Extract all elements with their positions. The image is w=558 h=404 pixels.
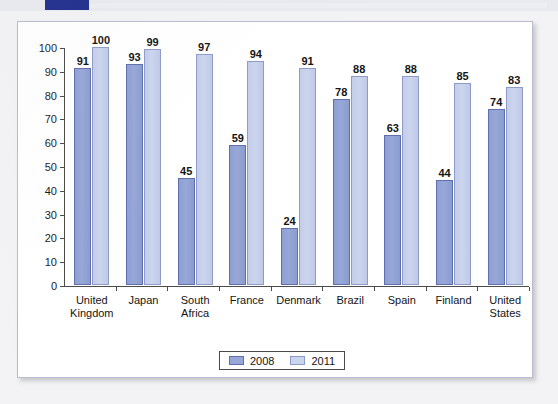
y-axis-tick — [60, 215, 64, 216]
y-axis-tick — [60, 191, 64, 192]
y-axis-tick-label: 40 — [45, 185, 57, 197]
chart-panel: 0102030405060708090100 91100939945975994… — [17, 21, 533, 378]
y-axis-tick-label: 90 — [45, 66, 57, 78]
y-axis-line — [64, 48, 65, 287]
bar-value-label: 44 — [438, 167, 450, 179]
y-axis-tick-label: 0 — [51, 280, 57, 292]
bar-2011: 88 — [351, 76, 368, 285]
bar-value-label: 88 — [353, 63, 365, 75]
category-label-line: Kingdom — [59, 307, 125, 320]
legend-swatch-2011 — [290, 356, 305, 365]
legend-label-2011: 2011 — [311, 355, 335, 367]
y-axis-tick — [60, 238, 64, 239]
bar-value-label: 83 — [508, 74, 520, 86]
bar-2008: 74 — [488, 109, 505, 285]
bar-2008: 44 — [436, 180, 453, 285]
bar-2008: 91 — [74, 68, 91, 285]
bar-group: 4485 — [436, 47, 471, 285]
y-axis-tick-label: 10 — [45, 256, 57, 268]
x-axis-tick — [374, 287, 375, 291]
category-label-line: United — [472, 294, 538, 307]
y-axis-tick-label: 60 — [45, 137, 57, 149]
bar-2011: 88 — [402, 76, 419, 285]
y-axis-tick-label: 20 — [45, 232, 57, 244]
legend-label-2008: 2008 — [250, 355, 274, 367]
y-axis-tick — [60, 48, 64, 49]
bar-value-label: 59 — [232, 132, 244, 144]
bar-value-label: 74 — [490, 96, 502, 108]
bar-value-label: 97 — [198, 41, 210, 53]
legend-swatch-2008 — [229, 356, 244, 365]
x-axis-tick — [167, 287, 168, 291]
y-axis-tick — [60, 167, 64, 168]
bar-2011: 94 — [247, 61, 264, 285]
bar-group: 9399 — [126, 47, 161, 285]
chart-legend: 20082011 — [219, 351, 345, 370]
banner-accent-block — [45, 0, 89, 10]
bar-group: 4597 — [178, 47, 213, 285]
bar-group: 5994 — [229, 47, 264, 285]
bar-2008: 93 — [126, 64, 143, 285]
bar-value-label: 91 — [77, 55, 89, 67]
bar-2011: 91 — [299, 68, 316, 285]
x-axis-tick — [529, 287, 530, 291]
bar-2008: 78 — [333, 99, 350, 285]
y-axis-tick — [60, 96, 64, 97]
y-axis-tick-label: 30 — [45, 209, 57, 221]
y-axis-tick-label: 80 — [45, 90, 57, 102]
bar-value-label: 100 — [92, 34, 110, 46]
bar-2011: 97 — [196, 54, 213, 285]
banner-rule — [89, 3, 547, 8]
bar-2011: 85 — [454, 83, 471, 285]
bar-group: 7888 — [333, 47, 368, 285]
bar-value-label: 93 — [128, 51, 140, 63]
x-axis-line — [64, 286, 529, 287]
y-axis-tick-label: 50 — [45, 161, 57, 173]
bar-2011: 99 — [144, 49, 161, 285]
bar-2008: 24 — [281, 228, 298, 285]
bar-group: 2491 — [281, 47, 316, 285]
x-axis-tick — [116, 287, 117, 291]
category-label: UnitedStates — [472, 294, 538, 320]
bar-group: 91100 — [74, 47, 109, 285]
x-axis-tick — [322, 287, 323, 291]
x-axis-tick — [271, 287, 272, 291]
bar-2008: 63 — [384, 135, 401, 285]
bar-value-label: 99 — [146, 36, 158, 48]
x-axis-tick — [219, 287, 220, 291]
bar-value-label: 91 — [301, 55, 313, 67]
bar-group: 6388 — [384, 47, 419, 285]
category-label-line: Africa — [162, 307, 228, 320]
bar-value-label: 85 — [456, 70, 468, 82]
legend-item-2011: 2011 — [290, 355, 335, 367]
bar-value-label: 94 — [250, 48, 262, 60]
bar-group: 7483 — [488, 47, 523, 285]
bar-value-label: 45 — [180, 165, 192, 177]
y-axis-tick — [60, 143, 64, 144]
bar-2011: 83 — [506, 87, 523, 285]
y-axis-tick-label: 70 — [45, 113, 57, 125]
bar-value-label: 78 — [335, 86, 347, 98]
y-axis-tick — [60, 72, 64, 73]
plot-area: 0102030405060708090100 91100939945975994… — [64, 48, 529, 286]
bar-value-label: 24 — [283, 215, 295, 227]
bar-value-label: 63 — [387, 122, 399, 134]
bar-2008: 45 — [178, 178, 195, 285]
top-banner-strip — [0, 0, 558, 11]
y-axis-tick — [60, 119, 64, 120]
category-label-line: States — [472, 307, 538, 320]
bar-value-label: 88 — [405, 63, 417, 75]
bar-2008: 59 — [229, 145, 246, 285]
bar-2011: 100 — [92, 47, 109, 285]
y-axis-tick — [60, 286, 64, 287]
y-axis-tick — [60, 262, 64, 263]
legend-item-2008: 2008 — [229, 355, 274, 367]
x-axis-tick — [477, 287, 478, 291]
x-axis-tick — [426, 287, 427, 291]
y-axis-tick-label: 100 — [39, 42, 57, 54]
